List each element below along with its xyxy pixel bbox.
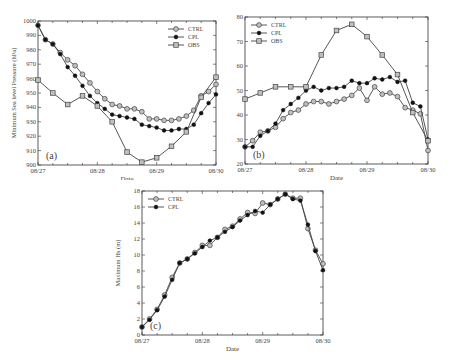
marker-cpl <box>380 78 384 82</box>
marker-ctrl <box>304 102 309 107</box>
marker-ctrl <box>174 27 179 32</box>
marker-cpl <box>58 52 62 56</box>
marker-ctrl <box>73 63 78 68</box>
marker-cpl <box>283 192 287 196</box>
marker-cpl <box>251 145 255 149</box>
marker-ctrl <box>281 116 286 121</box>
marker-ctrl <box>311 99 316 104</box>
y-tick-label: 970 <box>26 60 36 67</box>
plot-frame <box>142 191 323 335</box>
marker-obs <box>184 130 189 135</box>
marker-ctrl <box>326 102 331 107</box>
marker-ctrl <box>162 118 167 123</box>
marker-cpl <box>223 230 227 234</box>
marker-ctrl <box>154 197 159 202</box>
marker-cpl <box>208 239 212 243</box>
y-tick-label: 50 <box>237 87 244 94</box>
y-tick-label: 930 <box>26 118 36 125</box>
panel-label: (c) <box>150 320 161 332</box>
marker-cpl <box>403 79 407 83</box>
marker-ctrl <box>88 81 93 86</box>
marker-cpl <box>174 35 178 39</box>
marker-ctrl <box>177 117 182 122</box>
marker-cpl <box>44 38 48 42</box>
y-tick-label: 10 <box>134 251 141 258</box>
marker-cpl <box>178 261 182 265</box>
marker-cpl <box>81 84 85 88</box>
marker-ctrl <box>342 97 347 102</box>
marker-obs <box>174 43 179 48</box>
y-tick-label: 70 <box>237 38 244 45</box>
marker-obs <box>51 91 56 96</box>
marker-cpl <box>162 129 166 133</box>
x-tick-label: 08/28 <box>195 337 210 344</box>
legend-entry-cpl: CPL <box>271 30 282 36</box>
y-tick-label: 0 <box>137 331 140 338</box>
marker-ctrl <box>80 72 85 77</box>
y-axis-label: Maximum Hs (m) <box>114 240 122 287</box>
y-tick-label: 940 <box>26 103 36 110</box>
chart-b: 08/2708/2808/2908/3020304050607080DateMa… <box>225 0 449 180</box>
y-tick-label: 14 <box>134 219 141 226</box>
chart-a-panel: 08/2708/2808/2908/3090091092093094095096… <box>0 0 225 180</box>
marker-cpl <box>312 85 316 89</box>
marker-ctrl <box>257 23 262 28</box>
marker-cpl <box>216 236 220 240</box>
chart-c-panel: 08/2708/2808/2908/30024681012141618DateM… <box>100 180 350 361</box>
marker-ctrl <box>169 118 174 123</box>
legend-entry-obs: OBS <box>188 42 200 48</box>
y-tick-label: 910 <box>26 147 36 154</box>
legend-entry-obs: OBS <box>271 38 283 44</box>
marker-obs <box>154 156 159 161</box>
panel-label: (b) <box>253 149 265 161</box>
marker-obs <box>110 120 115 125</box>
marker-cpl <box>289 102 293 106</box>
panel-label: (a) <box>46 150 57 162</box>
marker-cpl <box>274 122 278 126</box>
marker-cpl <box>281 108 285 112</box>
marker-cpl <box>321 268 325 272</box>
chart-c: 08/2708/2808/2908/30024681012141618DateM… <box>100 180 350 361</box>
marker-ctrl <box>110 102 115 107</box>
marker-cpl <box>257 31 261 35</box>
marker-ctrl <box>125 106 130 111</box>
y-tick-label: 40 <box>237 111 244 118</box>
series-line-obs <box>38 77 216 162</box>
marker-cpl <box>373 76 377 80</box>
marker-obs <box>410 110 415 115</box>
x-axis-label: Date <box>226 345 239 353</box>
marker-obs <box>95 104 100 109</box>
marker-cpl <box>193 252 197 256</box>
y-tick-label: 30 <box>237 136 244 143</box>
x-tick-label: 08/27 <box>31 167 47 174</box>
marker-obs <box>199 95 204 100</box>
marker-cpl <box>365 81 369 85</box>
marker-ctrl <box>154 117 159 122</box>
marker-obs <box>334 28 339 33</box>
marker-obs <box>380 53 385 58</box>
marker-cpl <box>396 80 400 84</box>
y-tick-label: 6 <box>137 283 141 290</box>
marker-cpl <box>231 225 235 229</box>
y-tick-label: 960 <box>26 75 36 82</box>
marker-cpl <box>118 114 122 118</box>
marker-cpl <box>51 42 55 46</box>
y-tick-label: 1000 <box>23 17 36 24</box>
x-tick-label: 08/28 <box>90 167 105 174</box>
y-tick-label: 990 <box>26 31 36 38</box>
marker-ctrl <box>296 108 301 113</box>
marker-obs <box>65 102 70 107</box>
y-tick-label: 8 <box>137 267 140 274</box>
marker-ctrl <box>260 201 265 206</box>
marker-ctrl <box>365 98 370 103</box>
marker-obs <box>258 91 263 96</box>
marker-ctrl <box>387 91 392 96</box>
x-tick-label: 08/29 <box>360 166 375 173</box>
marker-cpl <box>243 145 247 149</box>
legend-entry-cpl: CPL <box>168 204 179 210</box>
x-tick-label: 08/27 <box>238 166 254 173</box>
marker-ctrl <box>95 89 100 94</box>
marker-cpl <box>103 107 107 111</box>
marker-cpl <box>298 199 302 203</box>
marker-obs <box>349 22 354 27</box>
